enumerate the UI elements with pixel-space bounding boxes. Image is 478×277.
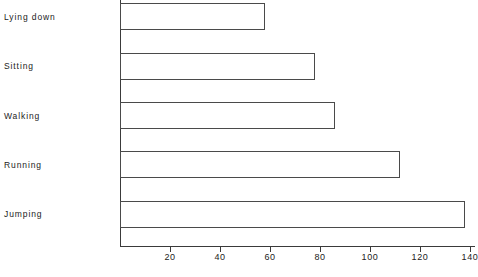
category-label: Jumping xyxy=(4,210,42,219)
tick-label: 60 xyxy=(264,253,275,262)
category-axis-labels: Lying downSittingWalkingRunningJumping xyxy=(0,0,120,247)
category-label: Running xyxy=(4,161,42,170)
tick-label: 20 xyxy=(164,253,175,262)
tick-label: 120 xyxy=(412,253,429,262)
tick-label: 40 xyxy=(214,253,225,262)
tick-label: 80 xyxy=(314,253,325,262)
bar xyxy=(120,53,315,80)
plot-area xyxy=(120,0,475,247)
category-label: Lying down xyxy=(4,13,56,22)
bar xyxy=(120,102,335,129)
value-axis-ticks: 20406080100120140 xyxy=(120,247,475,277)
bar xyxy=(120,201,465,228)
tick-label: 100 xyxy=(362,253,379,262)
category-label: Sitting xyxy=(4,62,34,71)
category-label: Walking xyxy=(4,112,40,121)
bar xyxy=(120,3,265,30)
tick-label: 140 xyxy=(462,253,478,262)
bar xyxy=(120,151,400,178)
